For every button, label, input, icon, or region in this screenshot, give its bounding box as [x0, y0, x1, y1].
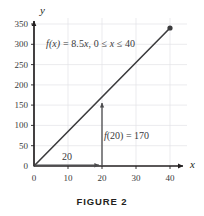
- y-tick-label-250: 250: [6, 60, 28, 69]
- x-tick-label-30: 30: [132, 174, 141, 183]
- x-tick-label-10: 10: [64, 174, 73, 183]
- y-tick-label-0: 0: [6, 162, 28, 171]
- y-tick-label-350: 350: [6, 20, 28, 29]
- endpoint-marker: [167, 25, 172, 30]
- function-formula-annotation: f(x) = 8.5x, 0 ≤ x ≤ 40: [46, 39, 135, 49]
- formula-domain-pre: , 0 ≤: [89, 38, 110, 49]
- y-axis-label: y: [40, 5, 45, 16]
- x-axis-label: x: [190, 159, 195, 170]
- function-value-annotation: f(20) = 170: [104, 131, 149, 141]
- figure-caption: FIGURE 2: [0, 196, 204, 207]
- y-tick-label-100: 100: [6, 121, 28, 130]
- y-tick-label-200: 200: [6, 80, 28, 89]
- value-rest: (20) = 170: [107, 130, 149, 141]
- formula-eq: = 8.5: [60, 38, 84, 49]
- x-tick-label-40: 40: [166, 174, 175, 183]
- figure-container: 350 300 250 200 150 100 50 0 0 10 20 30 …: [0, 0, 204, 216]
- span-label: 20: [62, 152, 72, 162]
- y-tick-label-150: 150: [6, 101, 28, 110]
- y-tick-label-50: 50: [6, 141, 28, 150]
- y-tick-label-300: 300: [6, 40, 28, 49]
- formula-arg: (x): [49, 38, 60, 49]
- function-plot: [0, 0, 204, 216]
- x-tick-label-20: 20: [98, 174, 107, 183]
- formula-domain-post: ≤ 40: [114, 38, 135, 49]
- x-tick-label-0: 0: [32, 174, 37, 183]
